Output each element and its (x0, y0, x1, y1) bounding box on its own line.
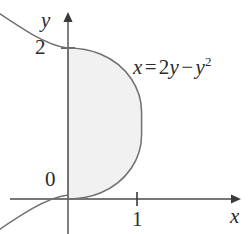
y-axis-arrowhead (63, 12, 72, 22)
x-tick-label-1: 1 (132, 209, 143, 230)
shaded-region (68, 48, 142, 199)
equation-coefficient: 2 (159, 55, 170, 79)
equation-minus: − (181, 55, 193, 79)
parabola-upper-branch (0, 12, 68, 48)
curve-equation-label: x=2y−y2 (133, 57, 212, 78)
equation-exponent: 2 (205, 54, 212, 69)
x-axis-arrowhead (231, 194, 241, 203)
equation-lhs: x (133, 55, 143, 79)
origin-label: 0 (45, 169, 56, 190)
equation-equals: = (145, 55, 157, 79)
y-axis-label: y (41, 10, 50, 31)
equation-variable: y (170, 55, 180, 79)
y-tick-label-2: 2 (35, 37, 46, 58)
equation-term-variable: y (195, 55, 205, 79)
graph-figure: y x 2 0 1 x=2y−y2 (0, 0, 249, 234)
x-axis-label: x (230, 206, 239, 227)
